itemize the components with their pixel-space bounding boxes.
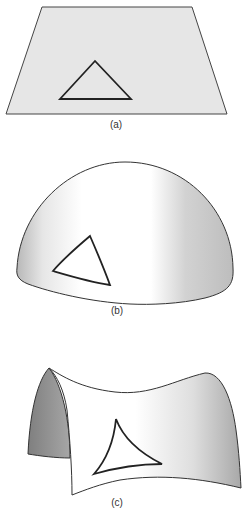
panel-c-label: (c) bbox=[111, 498, 123, 508]
curvature-diagram bbox=[0, 0, 251, 515]
panel-a-plane bbox=[6, 7, 227, 114]
saddle-surface bbox=[49, 368, 241, 495]
panel-b-sphere bbox=[17, 162, 233, 304]
panel-c-saddle bbox=[28, 368, 241, 495]
panel-b-label: (b) bbox=[111, 306, 123, 316]
panel-a-label: (a) bbox=[110, 120, 122, 130]
flat-plane-surface bbox=[6, 7, 227, 114]
dome-surface bbox=[17, 162, 233, 304]
